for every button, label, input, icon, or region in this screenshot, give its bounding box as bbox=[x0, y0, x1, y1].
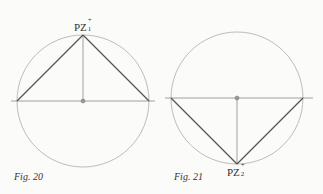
diagram-canvas bbox=[0, 0, 323, 194]
fig20-caption: Fig. 20 bbox=[14, 171, 43, 182]
figure-21 bbox=[165, 32, 313, 164]
fig20-point-label: PZ+1 bbox=[74, 21, 87, 33]
fig21-center-dot bbox=[235, 96, 239, 100]
fig21-point-label: PZ+2 bbox=[227, 166, 240, 178]
fig21-caption: Fig. 21 bbox=[174, 171, 203, 182]
figure-20 bbox=[11, 35, 155, 167]
fig20-center-dot bbox=[81, 99, 85, 103]
fig21-left-edge bbox=[171, 98, 237, 164]
fig21-right-edge bbox=[237, 98, 303, 164]
fig20-left-edge bbox=[17, 35, 83, 101]
fig20-right-edge bbox=[83, 35, 149, 101]
